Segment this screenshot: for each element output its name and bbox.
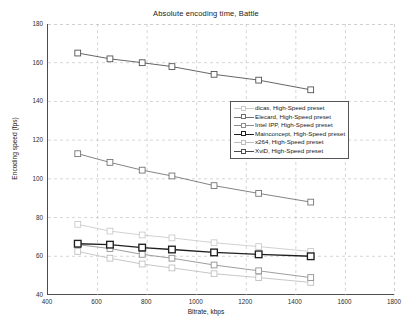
series-marker <box>75 249 81 255</box>
legend-marker-icon <box>241 123 246 128</box>
series-marker <box>169 173 175 179</box>
chart-legend[interactable]: dicas, High-Speed presetElecard, High-Sp… <box>230 101 349 159</box>
legend-item-label: x264, High-Speed preset <box>255 138 323 147</box>
series-marker <box>308 199 314 205</box>
series-marker <box>107 56 113 62</box>
legend-swatch-icon <box>233 113 255 122</box>
series-marker <box>139 244 146 251</box>
legend-swatch-icon <box>233 138 255 147</box>
series-layer <box>48 24 395 295</box>
series-marker <box>107 241 114 248</box>
series-marker <box>107 160 113 166</box>
series-marker <box>169 64 175 70</box>
legend-item-5[interactable]: XviD, High-Speed preset <box>233 147 345 156</box>
legend-item-label: Elecard, High-Speed preset <box>255 113 331 122</box>
y-axis-title: Encoding speed (fps) <box>11 19 18 279</box>
series-marker <box>307 253 314 260</box>
legend-swatch-icon <box>233 104 255 113</box>
legend-item-label: XviD, High-Speed preset <box>255 147 323 156</box>
legend-marker-icon <box>241 131 246 136</box>
legend-item-3[interactable]: Mainconcept, High-Speed preset <box>233 130 345 139</box>
series-marker <box>211 183 217 189</box>
legend-item-0[interactable]: dicas, High-Speed preset <box>233 104 345 113</box>
series-marker <box>75 151 81 157</box>
x-tick-1400: 1400 <box>273 298 317 305</box>
series-marker <box>255 251 262 258</box>
legend-item-label: Intel IPP, High-Speed preset <box>255 121 333 130</box>
series-marker <box>75 50 81 56</box>
series-marker <box>211 262 217 268</box>
x-tick-400: 400 <box>25 298 69 305</box>
x-tick-1600: 1600 <box>322 298 366 305</box>
plot-area <box>47 24 394 295</box>
x-axis-title: Bitrate, kbps <box>0 308 412 315</box>
series-marker <box>211 71 217 77</box>
series-marker <box>107 255 113 261</box>
series-marker <box>256 268 262 274</box>
series-marker <box>74 240 81 247</box>
series-marker <box>308 275 314 281</box>
figure-canvas: Absolute encoding time, Battle 406080100… <box>0 0 412 329</box>
series-marker <box>139 261 145 267</box>
series-marker <box>107 228 113 234</box>
series-marker <box>139 251 145 257</box>
x-tick-1200: 1200 <box>223 298 267 305</box>
series-marker <box>256 77 262 83</box>
series-marker <box>169 265 175 271</box>
series-marker <box>169 246 176 253</box>
x-tick-1000: 1000 <box>174 298 218 305</box>
legend-item-label: dicas, High-Speed preset <box>255 104 324 113</box>
legend-marker-icon <box>241 149 246 154</box>
series-marker <box>139 60 145 66</box>
legend-marker-icon <box>241 106 246 111</box>
series-marker <box>169 235 175 241</box>
legend-marker-icon <box>241 140 246 145</box>
series-marker <box>211 271 217 277</box>
series-marker <box>256 190 262 196</box>
series-marker <box>211 240 217 246</box>
x-tick-1800: 1800 <box>372 298 412 305</box>
series-marker <box>169 255 175 261</box>
legend-item-1[interactable]: Elecard, High-Speed preset <box>233 113 345 122</box>
legend-swatch-icon <box>233 130 255 139</box>
legend-marker-icon <box>241 114 246 119</box>
x-tick-600: 600 <box>75 298 119 305</box>
legend-swatch-icon <box>233 147 255 156</box>
series-marker <box>139 167 145 173</box>
series-marker <box>211 249 218 256</box>
series-marker <box>256 275 262 281</box>
series-marker <box>308 87 314 93</box>
x-tick-800: 800 <box>124 298 168 305</box>
legend-item-4[interactable]: x264, High-Speed preset <box>233 138 345 147</box>
series-marker <box>139 232 145 238</box>
series-marker <box>256 244 262 250</box>
legend-item-2[interactable]: Intel IPP, High-Speed preset <box>233 121 345 130</box>
legend-item-label: Mainconcept, High-Speed preset <box>255 130 345 139</box>
series-marker <box>75 221 81 227</box>
legend-swatch-icon <box>233 121 255 130</box>
